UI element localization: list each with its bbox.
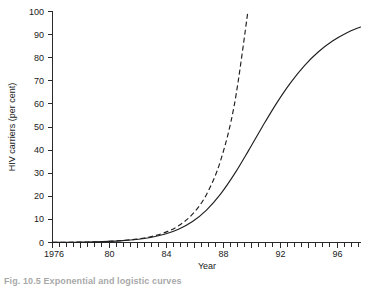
y-tick-label-70: 70: [34, 76, 44, 86]
x-tick-label-1976: 1976: [44, 249, 64, 259]
x-tick-label-96: 96: [332, 249, 342, 259]
y-tick-label-100: 100: [29, 7, 44, 17]
y-axis-title: HIV carriers (per cent): [7, 83, 17, 172]
figure-caption: Fig. 10.5 Exponential and logistic curve…: [4, 276, 364, 286]
x-tick-label-92: 92: [275, 249, 285, 259]
exponential-curve: [53, 12, 248, 243]
x-axis-title: Year: [198, 261, 216, 271]
y-tick-label-30: 30: [34, 168, 44, 178]
y-tick-label-60: 60: [34, 99, 44, 109]
x-tick-label-88: 88: [218, 249, 228, 259]
y-tick-label-40: 40: [34, 145, 44, 155]
chart-plot: 0 10 20 30 40 50 60 70 80 90 100 HIV car…: [0, 0, 371, 286]
y-tick-label-0: 0: [39, 238, 44, 248]
y-tick-label-20: 20: [34, 191, 44, 201]
x-axis-minor-ticks: [60, 243, 359, 247]
x-tick-label-84: 84: [161, 249, 171, 259]
y-axis-ticks: [48, 12, 53, 243]
y-tick-label-80: 80: [34, 53, 44, 63]
y-tick-label-90: 90: [34, 30, 44, 40]
y-tick-label-10: 10: [34, 214, 44, 224]
figure-container: 0 10 20 30 40 50 60 70 80 90 100 HIV car…: [0, 0, 371, 286]
x-tick-label-80: 80: [104, 249, 114, 259]
logistic-curve: [53, 27, 361, 242]
y-tick-label-50: 50: [34, 122, 44, 132]
